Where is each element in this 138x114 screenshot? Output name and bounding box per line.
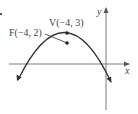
y-axis-label: y	[97, 7, 101, 17]
parabola-curve	[18, 32, 111, 82]
parabola-figure: F(−4, 2) V(−4, 3) y x	[0, 0, 138, 114]
vertex-label: V(−4, 3)	[49, 18, 84, 28]
vertex-point	[65, 31, 69, 35]
bullet-mark	[0, 13, 2, 15]
focus-point	[65, 41, 69, 45]
x-axis-label: x	[125, 66, 129, 76]
focus-label: F(−4, 2)	[9, 28, 42, 38]
